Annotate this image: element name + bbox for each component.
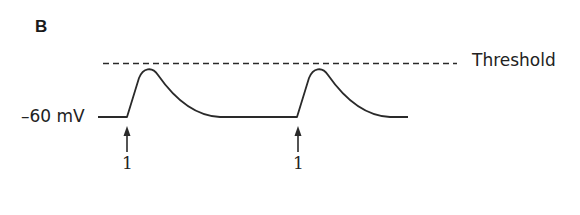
membrane-potential-trace <box>98 69 408 117</box>
stimulus-label-1: 1 <box>122 153 133 173</box>
stimulus-arrow-1 <box>124 126 131 152</box>
membrane-potential-diagram <box>0 0 580 215</box>
resting-potential-label: –60 mV <box>21 106 85 126</box>
threshold-label: Threshold <box>472 50 556 70</box>
stimulus-arrow-2 <box>295 126 302 152</box>
stimulus-label-2: 1 <box>293 153 304 173</box>
